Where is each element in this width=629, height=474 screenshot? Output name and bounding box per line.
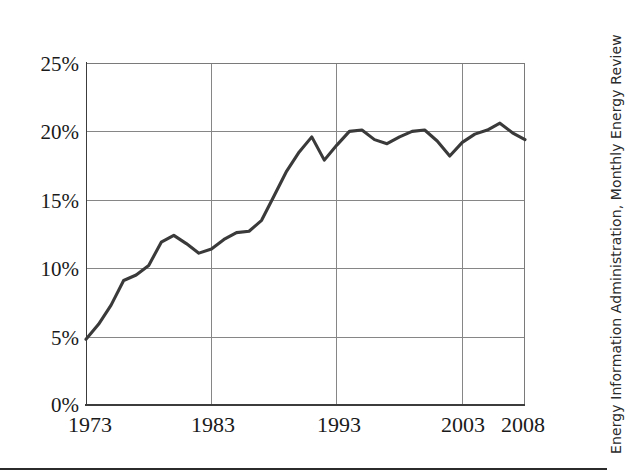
x-tick-label-1983: 1983 — [191, 412, 235, 437]
y-tick-label-10: 10% — [41, 257, 80, 281]
plot-background — [86, 63, 525, 405]
y-tick-label-20: 20% — [41, 120, 80, 144]
source-note: Energy Information Administration, Month… — [603, 0, 629, 474]
y-axis-tick-labels: 25% 20% 15% 10% 5% 0% — [41, 52, 80, 417]
x-tick-label-1973: 1973 — [68, 412, 112, 437]
x-tick-label-2003: 2003 — [441, 412, 485, 437]
y-tick-label-15: 15% — [41, 189, 80, 213]
y-tick-label-25: 25% — [41, 52, 80, 76]
x-tick-label-2008: 2008 — [501, 412, 545, 437]
bottom-divider — [0, 468, 607, 470]
x-axis-tick-labels: 1973 1983 1993 2003 2008 — [68, 412, 545, 437]
source-note-text: Energy Information Administration, Month… — [608, 34, 624, 454]
y-tick-label-5: 5% — [51, 326, 79, 350]
x-tick-label-1993: 1993 — [317, 412, 361, 437]
